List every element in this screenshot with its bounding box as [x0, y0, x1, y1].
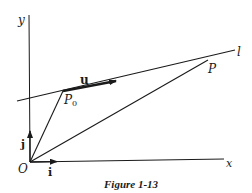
segment-o-p [30, 60, 208, 162]
x-axis [30, 159, 224, 162]
x-axis-label: x [226, 157, 233, 170]
figure-caption: Figure 1-13 [103, 178, 159, 190]
figure-canvas: y x O j i u l P0 P Figure 1-13 [0, 0, 252, 193]
p0-label: P0 [63, 93, 77, 108]
p0-label-subscript: 0 [72, 99, 77, 108]
origin-label: O [18, 162, 28, 176]
u-label: u [80, 73, 89, 87]
y-axis-label: y [17, 13, 25, 27]
line-l-label: l [237, 45, 241, 59]
i-label: i [48, 166, 52, 179]
vector-u [63, 81, 116, 91]
p-label: P [207, 62, 217, 76]
j-label: j [20, 138, 25, 151]
segment-o-p0 [30, 91, 63, 162]
line-l [17, 50, 235, 101]
